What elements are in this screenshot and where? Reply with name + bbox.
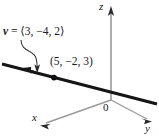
vector-pointer-curve <box>21 40 37 69</box>
x-axis-label: x <box>32 112 37 123</box>
z-axis-label: z <box>99 1 103 12</box>
vector-line-3d-figure: z y x 0 v = ⟨3, −4, 2⟩ (5, −2, 3) <box>0 0 159 138</box>
vector-components: ⟨3, −4, 2⟩ <box>20 25 64 37</box>
x-axis-line <box>46 100 111 123</box>
thick-vector-line <box>2 64 157 104</box>
x-axis-arrowhead <box>40 124 51 130</box>
y-axis-label: y <box>145 123 150 134</box>
figure-canvas <box>0 0 159 138</box>
vector-line-group <box>2 64 157 104</box>
origin-label: 0 <box>103 102 109 113</box>
vector-equation-label: v = ⟨3, −4, 2⟩ <box>3 26 65 38</box>
point-dot <box>51 75 57 81</box>
point-coordinates-label: (5, −2, 3) <box>50 56 93 68</box>
y-axis-line <box>111 100 147 119</box>
